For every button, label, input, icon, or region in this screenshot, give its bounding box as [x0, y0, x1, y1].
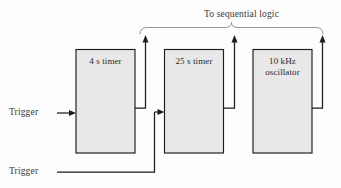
label-trigger-top: Trigger — [9, 107, 38, 117]
block-diagram-figure: 4 s timer 25 s timer 10 kHz oscillator T… — [0, 0, 341, 188]
arrowhead-out-osc-10khz — [320, 35, 326, 43]
block-osc-10khz — [253, 50, 312, 154]
block-timer-4s — [76, 50, 135, 154]
bracket-sequential-logic — [140, 23, 323, 35]
arrowhead-out-timer-25s — [232, 35, 238, 43]
label-to-sequential-logic: To sequential logic — [204, 9, 279, 19]
arrowhead-trigger-top — [69, 110, 76, 116]
diagram-canvas — [0, 0, 341, 188]
label-trigger-bottom: Trigger — [9, 166, 38, 176]
arrowhead-trigger-bottom — [158, 109, 165, 115]
block-timer-25s — [165, 50, 224, 154]
arrowhead-out-timer-4s — [143, 35, 149, 43]
wire-out-osc-10khz — [312, 40, 323, 108]
wire-out-timer-4s — [135, 40, 146, 108]
wire-out-timer-25s — [224, 40, 235, 108]
